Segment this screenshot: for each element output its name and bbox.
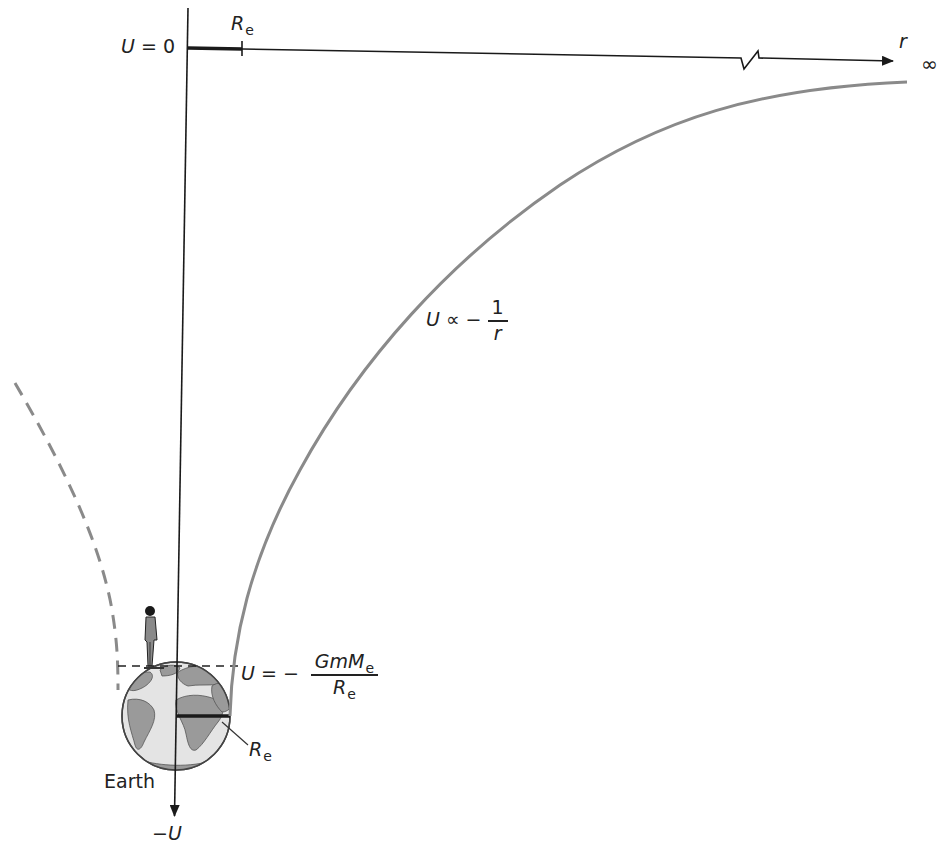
surface-potential-label: U = −GmMeRe bbox=[241, 652, 378, 697]
earth-label: Earth bbox=[104, 772, 155, 791]
re-top-label: Re bbox=[231, 14, 254, 33]
diagram-graphics bbox=[0, 0, 947, 850]
r-axis-label: r bbox=[899, 32, 907, 51]
potential-curve bbox=[230, 82, 907, 716]
re-radius-label: Re bbox=[249, 740, 272, 759]
horizontal-axis bbox=[188, 48, 893, 69]
potential-energy-diagram: U = 0 Re r ∞ U ∝ −1r U = −GmMeRe Re Eart… bbox=[0, 0, 947, 850]
dashed-curve-mirror bbox=[15, 383, 118, 690]
curve-label: U ∝ −1r bbox=[426, 298, 508, 343]
u-zero-label: U = 0 bbox=[121, 37, 175, 56]
person-figure bbox=[144, 606, 164, 668]
infinity-label: ∞ bbox=[921, 54, 938, 74]
neg-u-axis-label: −U bbox=[152, 824, 182, 843]
re-segment-top bbox=[188, 48, 242, 49]
